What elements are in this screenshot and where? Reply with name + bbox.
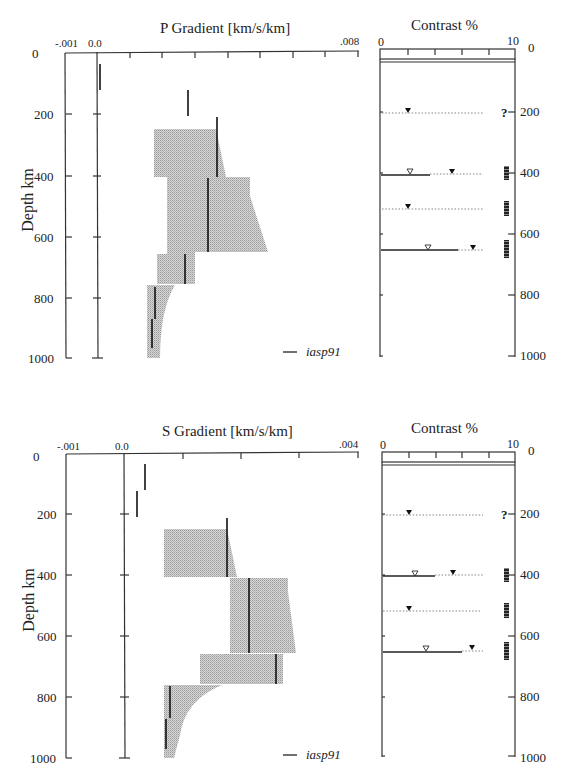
p-y-axis-label: Depth km — [19, 168, 37, 232]
s-x-min-label: -.001 — [57, 440, 80, 452]
p-contrast-x-min: 0 — [378, 35, 384, 49]
filled-triangle-marker — [449, 169, 455, 174]
open-triangle-marker — [407, 169, 413, 174]
s-contrast-y-200: 200 — [520, 506, 540, 521]
s-y-ticks — [66, 514, 129, 758]
s-contrast-y-0: 0 — [528, 443, 535, 458]
s-gradient-title: S Gradient [km/s/km] — [162, 423, 293, 439]
hatched-bar-icon — [504, 240, 509, 258]
p-y-axis — [65, 53, 66, 358]
p-y-tick-400: 400 — [34, 169, 54, 184]
s-y-tick-400: 400 — [37, 568, 57, 583]
filled-triangle-marker — [470, 245, 476, 250]
s-y-tick-600: 600 — [37, 629, 57, 644]
filled-triangle-marker — [469, 645, 475, 650]
s-y-axis-label: Depth km — [20, 568, 38, 632]
open-triangle-marker — [425, 245, 431, 250]
filled-triangle-marker — [405, 204, 411, 209]
filled-triangle-marker — [406, 606, 412, 611]
filled-triangle-marker — [405, 108, 411, 113]
figure-canvas: P Gradient [km/s/km] -.001 0.0 .008 0 20… — [0, 0, 565, 773]
s-contrast-y-800: 800 — [520, 689, 540, 704]
p-contrast-y-1000: 1000 — [520, 348, 546, 363]
p-contrast-panel: Contrast % 0 10 0 200 400 600 800 1000 ? — [378, 17, 546, 363]
s-contrast-y-600: 600 — [520, 628, 540, 643]
p-contrast-y-800: 800 — [520, 287, 540, 302]
p-y-tick-600: 600 — [34, 230, 54, 245]
p-y-ticks — [66, 114, 101, 358]
p-y-tick-1000: 1000 — [28, 351, 54, 366]
p-y-tick-0: 0 — [32, 46, 39, 61]
p-contrast-x-max: 10 — [507, 34, 519, 48]
p-x-zero-label: 0.0 — [88, 37, 102, 49]
p-gradient-panel: P Gradient [km/s/km] -.001 0.0 .008 0 20… — [19, 20, 360, 366]
hatched-bar-icon — [504, 201, 509, 216]
s-y-tick-800: 800 — [37, 690, 57, 705]
open-triangle-marker — [412, 571, 418, 576]
p-contrast-top-bar — [380, 49, 515, 59]
p-x-max-label: .008 — [340, 35, 360, 47]
s-contrast-y-400: 400 — [520, 567, 540, 582]
p-x-axis — [65, 51, 359, 53]
question-mark: ? — [501, 105, 508, 120]
s-contrast-panel: Contrast % 0 10 0 200 400 600 800 1000 ? — [380, 420, 546, 765]
s-zero-line — [124, 454, 125, 758]
s-y-tick-200: 200 — [37, 507, 57, 522]
s-contrast-title: Contrast % — [411, 420, 478, 436]
p-x-min-label: -.001 — [55, 37, 78, 49]
s-x-zero-label: 0.0 — [115, 440, 129, 452]
hatched-bar-icon — [504, 166, 509, 180]
p-zero-line — [97, 52, 98, 358]
hatched-bar-icon — [504, 568, 509, 582]
p-contrast-title: Contrast % — [411, 17, 478, 33]
s-y-tick-1000: 1000 — [30, 751, 56, 766]
p-y-tick-800: 800 — [34, 291, 54, 306]
s-legend-label: iasp91 — [306, 747, 341, 762]
s-y-tick-0: 0 — [33, 449, 40, 464]
s-x-axis — [66, 452, 359, 454]
s-gradient-panel: S Gradient [km/s/km] -.001 0.0 .004 0 20… — [20, 423, 359, 766]
filled-triangle-marker — [450, 570, 456, 575]
hatched-bar-icon — [504, 642, 509, 660]
s-contrast-x-max: 10 — [507, 437, 519, 451]
p-contrast-y-400: 400 — [520, 165, 540, 180]
p-contrast-y-600: 600 — [520, 226, 540, 241]
p-contrast-y-0: 0 — [528, 40, 535, 55]
p-contrast-y-200: 200 — [520, 104, 540, 119]
p-y-tick-200: 200 — [34, 107, 54, 122]
p-gradient-title: P Gradient [km/s/km] — [160, 20, 290, 36]
s-contrast-x-min: 0 — [380, 438, 386, 452]
filled-triangle-marker — [406, 510, 412, 515]
s-shaded-ranges — [164, 529, 296, 758]
s-contrast-y-1000: 1000 — [520, 750, 546, 765]
hatched-bar-icon — [504, 603, 509, 618]
p-legend-label: iasp91 — [306, 344, 341, 359]
question-mark: ? — [501, 507, 508, 522]
open-triangle-marker — [423, 646, 429, 651]
s-contrast-top-bar — [382, 452, 515, 462]
s-x-max-label: .004 — [339, 438, 359, 450]
